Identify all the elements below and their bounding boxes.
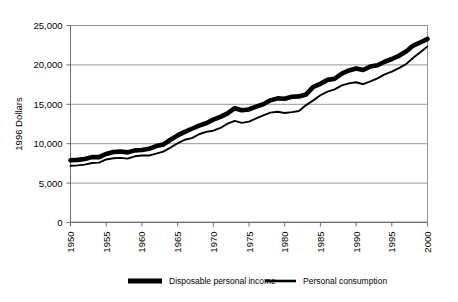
- x-tick-label: 1985: [315, 232, 326, 253]
- x-tick-label: 1955: [101, 232, 112, 253]
- chart-background: [0, 0, 458, 302]
- x-tick-label: 1950: [65, 232, 76, 253]
- x-tick-label: 1990: [351, 232, 362, 253]
- x-tick-label: 1965: [172, 232, 183, 253]
- x-tick-label: 1970: [208, 232, 219, 253]
- x-tick-label: 1980: [279, 232, 290, 253]
- y-axis-title: 1996 Dollars: [13, 97, 24, 151]
- y-tick-label: 25,000: [33, 20, 62, 31]
- x-tick-label: 1995: [386, 232, 397, 253]
- y-tick-label: 0: [57, 217, 62, 228]
- y-tick-label: 15,000: [33, 99, 62, 110]
- y-tick-label: 20,000: [33, 59, 62, 70]
- legend-label-personal-consumption: Personal consumption: [303, 276, 387, 286]
- y-tick-label: 5,000: [39, 178, 63, 189]
- legend-label-disposable-personal-income: Disposable personal income: [169, 276, 276, 286]
- line-chart: 05,00010,00015,00020,00025,000 195019551…: [0, 0, 458, 302]
- x-tick-label: 1975: [244, 232, 255, 253]
- y-tick-label: 10,000: [33, 138, 62, 149]
- x-tick-label: 2000: [422, 232, 433, 253]
- chart-container: 05,00010,00015,00020,00025,000 195019551…: [0, 0, 458, 302]
- x-tick-label: 1960: [136, 232, 147, 253]
